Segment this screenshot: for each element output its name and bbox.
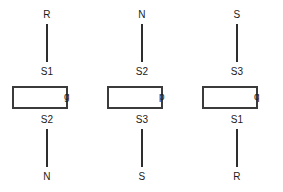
top-terminal-label: R — [0, 9, 94, 20]
bottom-pin-label: S3 — [95, 114, 189, 125]
bottom-terminal-label: N — [0, 171, 94, 182]
top-pin-label: S2 — [95, 66, 189, 77]
top-terminal-label: S — [190, 9, 283, 20]
bottom-pin-label: S2 — [0, 114, 94, 125]
top-terminal-label: N — [95, 9, 189, 20]
winding-block-q: S S3 q S1 R — [190, 0, 283, 192]
side-label: q — [254, 91, 260, 102]
bottom-lead-line — [236, 129, 238, 167]
top-lead-line — [236, 24, 238, 62]
top-pin-label: S3 — [190, 66, 283, 77]
bottom-pin-label: S1 — [190, 114, 283, 125]
top-pin-label: S1 — [0, 66, 94, 77]
top-lead-line — [46, 24, 48, 62]
winding-box — [107, 86, 163, 109]
bottom-lead-line — [141, 129, 143, 167]
bottom-terminal-label: R — [190, 171, 283, 182]
diagram-canvas: R S1 g S2 N N S2 p S3 S S S3 q S1 R — [0, 0, 283, 192]
winding-box — [12, 86, 68, 109]
top-lead-line — [141, 24, 143, 62]
bottom-terminal-label: S — [95, 171, 189, 182]
side-label: g — [64, 91, 70, 102]
side-label: p — [159, 91, 165, 102]
bottom-lead-line — [46, 129, 48, 167]
winding-block-g: R S1 g S2 N — [0, 0, 94, 192]
winding-block-p: N S2 p S3 S — [95, 0, 189, 192]
winding-box — [202, 86, 258, 109]
